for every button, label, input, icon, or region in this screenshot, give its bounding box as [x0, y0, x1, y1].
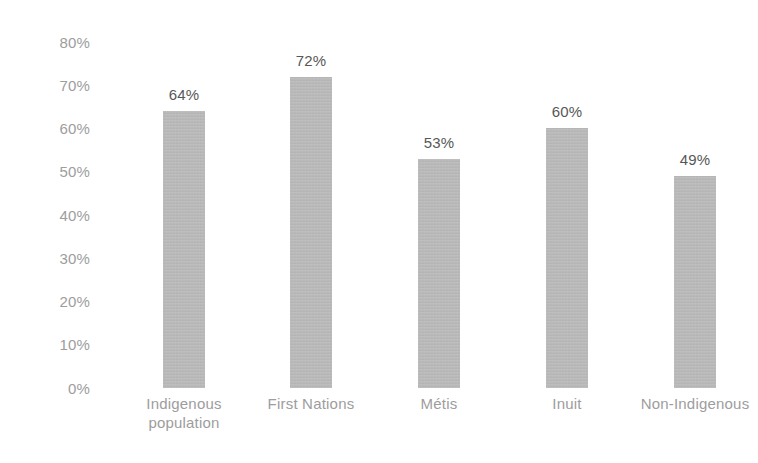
bar[interactable] — [418, 159, 460, 388]
bar[interactable] — [163, 111, 205, 388]
x-axis-category-label: First Nations — [241, 394, 381, 413]
bar-value-label: 64% — [169, 87, 200, 102]
x-axis-category-label-line: First Nations — [241, 394, 381, 413]
y-axis-tick-label: 80% — [18, 35, 90, 50]
bar-value-label: 60% — [552, 104, 583, 119]
bar-group: 60% Inuit — [507, 0, 627, 463]
plot-area: 64% Indigenous population 72% First Nati… — [96, 0, 758, 463]
x-axis-category-label: Métis — [369, 394, 509, 413]
x-axis-category-label-line: Indigenous — [114, 394, 254, 413]
bar-group: 64% Indigenous population — [124, 0, 244, 463]
bar[interactable] — [674, 176, 716, 388]
y-axis-tick-label: 70% — [18, 78, 90, 93]
bar-value-label: 53% — [424, 135, 455, 150]
bar-value-label: 72% — [296, 53, 327, 68]
x-axis-category-label: Inuit — [497, 394, 637, 413]
bar-group: 49% Non-Indigenous — [635, 0, 755, 463]
x-axis-category-label-line: Inuit — [497, 394, 637, 413]
bar-value-label: 49% — [680, 152, 711, 167]
y-axis-tick-label: 60% — [18, 121, 90, 136]
x-axis-category-label-line: Métis — [369, 394, 509, 413]
bar-group: 53% Métis — [379, 0, 499, 463]
x-axis-category-label: Indigenous population — [114, 394, 254, 432]
y-axis-tick-label: 50% — [18, 164, 90, 179]
bar-group: 72% First Nations — [251, 0, 371, 463]
bar-chart: 80% 70% 60% 50% 40% 30% 20% 10% 0% 64% I… — [0, 0, 758, 463]
x-axis-category-label-line: Non-Indigenous — [625, 394, 758, 413]
bar[interactable] — [290, 77, 332, 388]
y-axis-tick-label: 20% — [18, 294, 90, 309]
x-axis-category-label: Non-Indigenous — [625, 394, 758, 413]
x-axis-category-label-line: population — [114, 413, 254, 432]
y-axis-tick-label: 0% — [18, 381, 90, 396]
y-axis: 80% 70% 60% 50% 40% 30% 20% 10% 0% — [18, 0, 90, 463]
y-axis-tick-label: 30% — [18, 251, 90, 266]
bar[interactable] — [546, 128, 588, 388]
y-axis-tick-label: 40% — [18, 208, 90, 223]
y-axis-tick-label: 10% — [18, 337, 90, 352]
